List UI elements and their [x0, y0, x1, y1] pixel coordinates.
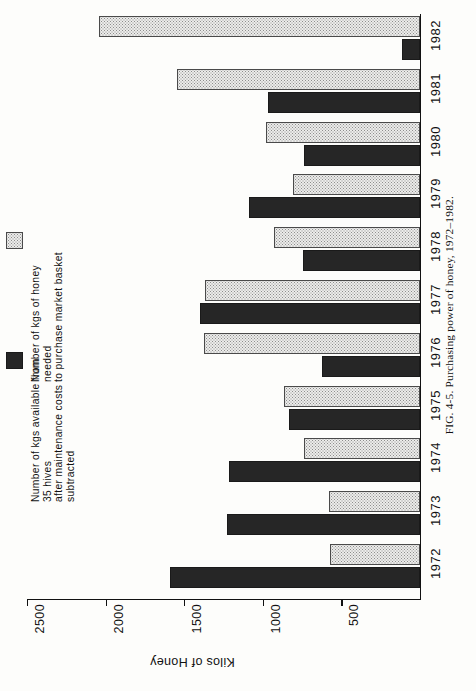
year-label-1977: 1977 [428, 284, 443, 315]
year-label-1975: 1975 [428, 390, 443, 421]
category-axis [420, 14, 421, 599]
year-label-1974: 1974 [428, 442, 443, 473]
year-label-1981: 1981 [428, 73, 443, 104]
bar-kgs-needed [99, 16, 420, 37]
bar-kgs-available [229, 461, 420, 482]
bar-kgs-available [249, 197, 420, 218]
bar-kgs-needed [177, 69, 420, 90]
solid-dark-swatch [6, 352, 23, 369]
bar-kgs-needed [204, 333, 420, 354]
value-axis [28, 599, 421, 600]
year-label-1976: 1976 [428, 337, 443, 368]
axis-tick-label: 1000 [269, 604, 283, 633]
bar-kgs-needed [274, 227, 420, 248]
legend-label: Number of kgs available from 35 hives af… [30, 352, 76, 502]
bar-kgs-available [322, 356, 420, 377]
bar-kgs-needed [330, 544, 420, 565]
bar-kgs-needed [205, 280, 420, 301]
bar-kgs-available [303, 250, 420, 271]
year-label-1972: 1972 [428, 548, 443, 579]
bar-kgs-needed [329, 491, 420, 512]
bar-kgs-available [304, 145, 420, 166]
figure-container: 2500200015001000500 Kilos of Honey 19721… [0, 0, 476, 691]
year-label-1979: 1979 [428, 178, 443, 209]
axis-tick [263, 599, 264, 606]
figure-caption: FIG. 4-5. Purchasing power of honey, 197… [443, 196, 455, 434]
axis-title: Kilos of Honey [150, 655, 235, 669]
bar-kgs-available [402, 39, 420, 60]
axis-tick-label: 2000 [112, 604, 126, 633]
axis-tick-label: 1500 [190, 604, 204, 633]
bar-kgs-needed [266, 122, 420, 143]
bar-kgs-available [227, 514, 420, 535]
year-label-1973: 1973 [428, 495, 443, 526]
axis-tick [27, 599, 28, 606]
year-label-1978: 1978 [428, 231, 443, 262]
axis-tick-label: 500 [347, 604, 361, 626]
bar-kgs-needed [293, 174, 420, 195]
axis-tick [106, 599, 107, 606]
chart-legend: Number of kgs of honey needed to purchas… [6, 232, 126, 460]
bar-kgs-needed [304, 438, 420, 459]
bar-kgs-available [289, 409, 420, 430]
bar-kgs-needed [284, 386, 420, 407]
axis-tick [341, 599, 342, 606]
year-label-1980: 1980 [428, 126, 443, 157]
bar-kgs-available [200, 303, 420, 324]
bar-kgs-available [170, 567, 420, 588]
stipple-swatch [6, 232, 23, 249]
axis-tick [184, 599, 185, 606]
bar-kgs-available [268, 92, 420, 113]
year-label-1982: 1982 [428, 20, 443, 51]
axis-tick-label: 2500 [33, 604, 47, 633]
